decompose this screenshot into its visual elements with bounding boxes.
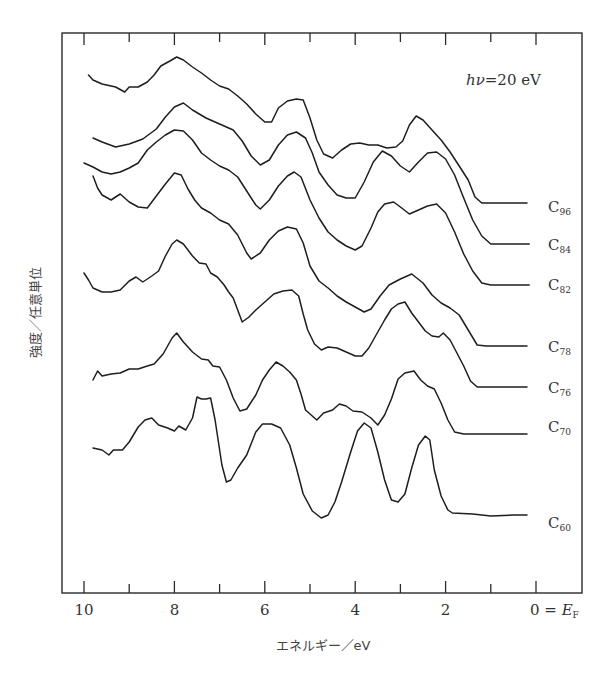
photon-energy-annotation: hν=20 eV (466, 71, 542, 89)
curve-c82 (84, 130, 529, 285)
series-labels: C96C84C82C78C76C70C60 (548, 198, 571, 533)
series-label-c60: C60 (548, 514, 571, 533)
curve-c70 (93, 333, 527, 434)
x-tick-labels: 1086420 = EF (74, 601, 578, 620)
series-label-c84: C84 (548, 236, 571, 255)
series-label-c96: C96 (548, 198, 571, 217)
series-label-c82: C82 (548, 276, 571, 295)
series-label-c76: C76 (548, 379, 571, 398)
tick-label: 6 (260, 601, 270, 619)
x-axis-label: エネルギー／eV (276, 638, 371, 653)
plot-frame (62, 33, 582, 593)
curve-c60 (93, 397, 527, 518)
tick-label: 10 (74, 601, 93, 619)
tick-label: 8 (170, 601, 180, 619)
series-label-c70: C70 (548, 418, 571, 437)
tick-label: 2 (441, 601, 451, 619)
chart: 1086420 = EF C96C84C82C78C76C70C60 hν=20… (0, 0, 609, 674)
tick-label: 4 (350, 601, 360, 619)
series-curves (84, 57, 529, 518)
tick-label-zero: 0 = EF (530, 601, 579, 620)
y-axis-label: 強度／任意単位 (28, 267, 43, 358)
series-label-c78: C78 (548, 338, 571, 357)
